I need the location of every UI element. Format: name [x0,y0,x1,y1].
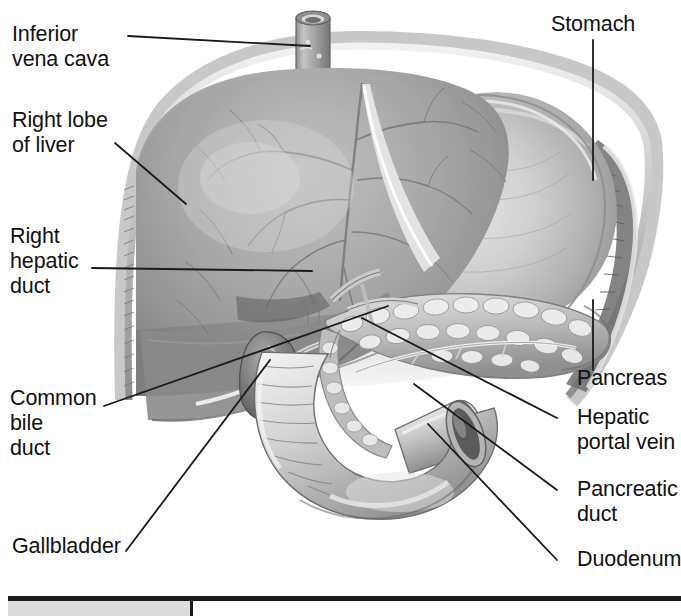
label-right-lobe-of-liver: Right lobe of liver [12,108,108,158]
leader-right-hepatic-duct [92,268,312,271]
leader-pancreatic-duct [414,384,557,490]
anatomy-figure: Inferior vena cava Right lobe of liver R… [0,0,681,616]
label-pancreatic-duct: Pancreatic duct [577,477,678,527]
leader-right-lobe-of-liver [115,143,186,204]
label-stomach: Stomach [551,12,635,37]
bottom-column-divider [190,598,193,616]
leader-duodenum [428,424,557,560]
label-hepatic-portal-vein: Hepatic portal vein [577,405,675,455]
label-pancreas: Pancreas [577,366,667,391]
label-common-bile-duct: Common bile duct [10,386,97,461]
label-right-hepatic-duct: Right hepatic duct [10,224,79,299]
label-inferior-vena-cava: Inferior vena cava [12,22,109,72]
leader-hepatic-portal-vein [362,318,557,418]
bottom-left-cell [8,601,190,616]
label-gallbladder: Gallbladder [12,534,121,559]
leader-inferior-vena-cava [128,36,310,46]
label-duodenum: Duodenum [577,547,681,572]
leader-gallbladder [126,360,270,551]
